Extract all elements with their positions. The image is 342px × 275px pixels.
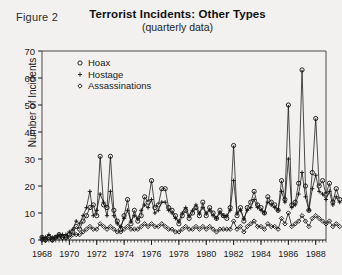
x-tick-label: 1988: [306, 249, 326, 259]
data-point-marker: [300, 170, 304, 174]
series-hostage: [40, 157, 342, 240]
y-tick-label: 40: [24, 127, 35, 138]
chart-plot-area: 0102030405060701968197019721974197619781…: [0, 0, 342, 275]
figure-container: Figure 2 Terrorist Incidents: Other Type…: [0, 0, 342, 275]
x-tick-label: 1980: [196, 249, 216, 259]
data-point-marker: [105, 214, 109, 218]
x-tick-label: 1986: [278, 249, 298, 259]
data-point-marker: [324, 197, 328, 201]
x-tick-label: 1968: [32, 249, 52, 259]
legend-label-assassinations: Assassinations: [88, 80, 152, 91]
x-tick-label: 1984: [251, 249, 271, 259]
data-point-marker: [163, 200, 167, 204]
data-point-marker: [78, 61, 82, 65]
data-point-marker: [78, 84, 82, 88]
x-tick-label: 1974: [114, 249, 134, 259]
legend-label-hoax: Hoax: [88, 57, 110, 68]
data-point-marker: [88, 189, 92, 193]
x-tick-label: 1978: [169, 249, 189, 259]
y-tick-label: 10: [24, 208, 35, 219]
legend-label-hostage: Hostage: [88, 69, 123, 80]
data-point-marker: [108, 189, 112, 193]
data-point-marker: [78, 72, 82, 76]
x-tick-label: 1972: [87, 249, 107, 259]
y-tick-label: 50: [24, 100, 35, 111]
y-tick-label: 0: [30, 235, 35, 246]
x-tick-label: 1970: [59, 249, 79, 259]
x-tick-label: 1982: [224, 249, 244, 259]
y-tick-label: 60: [24, 73, 35, 84]
chart-legend: HoaxHostageAssassinations: [78, 57, 152, 91]
y-tick-label: 20: [24, 181, 35, 192]
data-point-marker: [98, 192, 102, 196]
y-tick-label: 30: [24, 154, 35, 165]
x-tick-label: 1976: [141, 249, 161, 259]
y-tick-label: 70: [24, 46, 35, 57]
